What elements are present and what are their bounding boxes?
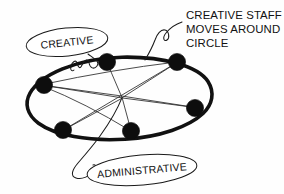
diagram-canvas: CREATIVE ADMINISTRATIVE CREATIVE STAFF M… bbox=[0, 0, 284, 194]
sketch-surface: CREATIVE ADMINISTRATIVE CREATIVE STAFF M… bbox=[0, 0, 284, 194]
node-top-left[interactable] bbox=[98, 53, 115, 70]
node-bottom-right[interactable] bbox=[122, 122, 139, 139]
node-left[interactable] bbox=[35, 76, 52, 93]
callout-line-1: CREATIVE STAFF bbox=[186, 9, 282, 21]
node-bottom-left[interactable] bbox=[54, 121, 71, 138]
callout-line-2: MOVES AROUND bbox=[186, 23, 280, 35]
node-top-right[interactable] bbox=[168, 53, 185, 70]
callout-line-3: CIRCLE bbox=[186, 37, 229, 49]
node-right[interactable] bbox=[186, 99, 203, 116]
